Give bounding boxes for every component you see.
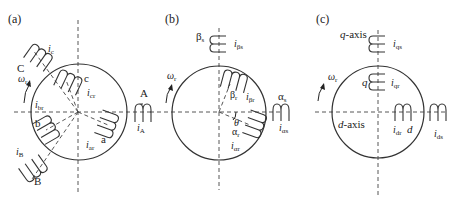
label-i-alpha-r: iαr <box>231 140 240 153</box>
panel-b: (b) βs iβs αs iαs βr iβr αr iαr θ ωr <box>150 12 289 190</box>
coil-beta-s-icon <box>210 36 226 52</box>
coil-qs-icon <box>369 36 385 52</box>
label-B: B <box>34 175 41 187</box>
label-beta-r: βr <box>230 89 238 102</box>
panel-a-tag: (a) <box>8 12 21 26</box>
label-beta-s: βs <box>196 30 205 44</box>
label-iqs: iqs <box>393 38 402 51</box>
coil-c-rotor-icon <box>54 69 83 95</box>
label-i-beta-r: iβr <box>246 91 255 104</box>
label-c-rotor: c <box>84 72 89 84</box>
label-ibr: ibr <box>35 99 44 112</box>
coil-dr-icon <box>395 104 411 121</box>
coil-alpha-s-icon <box>273 104 289 121</box>
machine-winding-diagram: (a) A iA ic C iB B c <box>0 0 461 199</box>
label-iB: iB <box>16 146 24 159</box>
label-omega-r: ωr <box>167 70 177 83</box>
label-icr: icr <box>87 87 96 100</box>
coil-qr-icon <box>369 74 385 90</box>
label-q-axis: q-axis <box>340 28 367 40</box>
label-iA: iA <box>137 122 145 135</box>
panel-a: (a) A iA ic C iB B c <box>8 12 152 195</box>
label-iqr: iqr <box>391 77 400 90</box>
panel-b-tag: (b) <box>165 12 179 26</box>
label-q-rotor: q <box>362 76 368 88</box>
label-omega-r: ωr <box>328 71 338 84</box>
coil-ds-icon <box>430 104 446 121</box>
coil-alpha-r-icon <box>242 110 267 139</box>
label-d-rotor: d <box>407 123 413 135</box>
panel-c-tag: (c) <box>316 12 329 26</box>
label-i-beta-s: iβs <box>234 38 243 51</box>
label-iar: iar <box>86 139 95 152</box>
label-idr: idr <box>393 124 402 137</box>
label-a-rotor: a <box>101 133 106 145</box>
label-omega-r: ωr <box>18 73 28 86</box>
panel-c: (c) q-axis iqs q iqr idr d ids d-axis ωr <box>315 12 446 195</box>
coil-A-icon <box>135 104 151 122</box>
label-b-rotor: b <box>35 117 41 129</box>
label-ids: ids <box>434 128 443 141</box>
label-A: A <box>140 87 148 99</box>
label-d-axis: d-axis <box>338 118 365 130</box>
label-alpha-s: αs <box>278 90 287 104</box>
label-i-alpha-s: iαs <box>279 122 288 135</box>
label-theta: θ <box>234 117 239 128</box>
